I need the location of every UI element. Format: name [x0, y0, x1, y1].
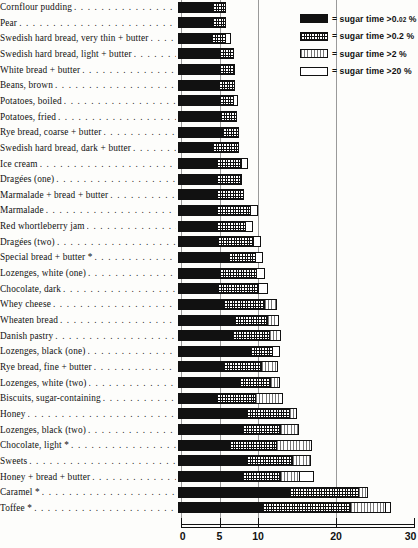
- bar-segment-1: [178, 377, 240, 388]
- bar-segment-3: [280, 424, 299, 435]
- leader-dots: . . . . . . . . . . . . . . . . . . . . …: [53, 299, 176, 309]
- bar-segment-1: [178, 471, 243, 482]
- legend-item-2: = sugar time >0.2 %: [300, 30, 418, 43]
- chart-row: Biscuits, sugar-containing . . . . . . .…: [0, 393, 418, 404]
- chart-row: Dragées (one) . . . . . . . . . . . . . …: [0, 174, 418, 185]
- row-label: Swedish hard bread, very thin + butter .…: [0, 33, 178, 43]
- bar-cell: [178, 236, 418, 247]
- row-label-text: Potatoes, fried: [0, 112, 58, 122]
- row-label-text: Honey: [0, 409, 28, 419]
- bar-segment-1: [178, 455, 247, 466]
- bar-segment-1: [178, 268, 220, 279]
- bar-segment-1: [178, 48, 220, 59]
- bar-segment-2: [216, 189, 244, 200]
- row-label-text: Chocolate, dark: [0, 284, 63, 294]
- chart-row: Marmalade . . . . . . . . . . . . . . . …: [0, 205, 418, 216]
- row-label-text: Pear: [0, 18, 19, 28]
- bar-cell: [178, 174, 418, 185]
- row-label-text: Toffee *: [0, 503, 34, 513]
- stacked-bar: [178, 33, 231, 44]
- stacked-bar: [178, 64, 235, 75]
- bar-segment-4: [253, 236, 261, 247]
- bar-segment-2: [217, 236, 254, 247]
- row-label-text: Marmalade + bread + butter: [0, 190, 110, 200]
- bar-segment-2: [216, 158, 243, 169]
- bar-cell: [178, 315, 418, 326]
- row-label-text: Potatoes, boiled: [0, 96, 64, 106]
- bar-segment-1: [178, 158, 217, 169]
- bar-segment-2: [289, 487, 359, 498]
- bar-cell: [178, 330, 418, 341]
- row-label-text: Swedish hard bread, very thin + butter: [0, 33, 151, 43]
- legend-label: = sugar time >0.2 %: [332, 31, 414, 41]
- stacked-bar: [178, 17, 226, 28]
- bar-segment-4: [255, 252, 263, 263]
- leader-dots: . . . . . . . . . . . . . . . . . . . . …: [29, 456, 176, 466]
- bar-cell: [178, 393, 418, 404]
- bar-segment-2: [228, 252, 257, 263]
- bar-segment-1: [178, 315, 235, 326]
- axis-line-second: [181, 527, 415, 528]
- bar-segment-2: [212, 17, 226, 28]
- bar-cell: [178, 455, 418, 466]
- chart-row: Potatoes, fried . . . . . . . . . . . . …: [0, 111, 418, 122]
- bar-segment-2: [216, 393, 256, 404]
- legend-swatch-white: [300, 67, 328, 76]
- row-label: Special bread + butter * . . . . . . . .…: [0, 252, 178, 262]
- bar-segment-2: [216, 221, 247, 232]
- leader-dots: . . . . . . . . . . . . . . . . . . . . …: [34, 503, 176, 513]
- bar-cell: [178, 205, 418, 216]
- bar-segment-2: [219, 64, 234, 75]
- chart-row: Whey cheese . . . . . . . . . . . . . . …: [0, 299, 418, 310]
- chart-row: Honey . . . . . . . . . . . . . . . . . …: [0, 408, 418, 419]
- bar-cell: [178, 252, 418, 263]
- row-label-text: Chocolate, light *: [0, 440, 71, 450]
- leader-dots: . . . . . . . . . . . . . . . . . . . . …: [88, 268, 176, 278]
- chart-row: Marmalade + bread + butter . . . . . . .…: [0, 189, 418, 200]
- chart-row: Cornflour pudding . . . . . . . . . . . …: [0, 2, 418, 13]
- row-label-text: Rye bread, fine + butter: [0, 362, 94, 372]
- chart-row: Sweets . . . . . . . . . . . . . . . . .…: [0, 455, 418, 466]
- row-label-text: Biscuits, sugar-containing: [0, 393, 103, 403]
- bar-segment-1: [178, 487, 290, 498]
- row-label: Honey . . . . . . . . . . . . . . . . . …: [0, 409, 178, 419]
- bar-cell: [178, 299, 418, 310]
- bar-segment-2: [223, 361, 262, 372]
- chart-row: Swedish hard bread, dark + butter . . . …: [0, 142, 418, 153]
- bar-segment-1: [178, 252, 229, 263]
- bar-segment-1: [178, 33, 212, 44]
- stacked-bar: [178, 440, 312, 451]
- bar-segment-1: [178, 2, 213, 13]
- stacked-bar: [178, 111, 237, 122]
- stacked-bar: [178, 487, 368, 498]
- bar-segment-2: [211, 33, 226, 44]
- row-label-text: Marmalade: [0, 205, 46, 215]
- leader-dots: . . . . . . . . . . . . . . . . . . . . …: [57, 237, 176, 247]
- row-label-text: Whey cheese: [0, 299, 53, 309]
- bar-cell: [178, 440, 418, 451]
- row-label: Pear . . . . . . . . . . . . . . . . . .…: [0, 18, 178, 28]
- bar-segment-2: [219, 95, 234, 106]
- leader-dots: . . . . . . . . . . . . . . . . . . . . …: [42, 487, 176, 497]
- axis-line: [181, 524, 415, 525]
- x-axis: 05102030: [0, 518, 418, 548]
- leader-dots: . . . . . . . . . . . . . . . . . . . . …: [82, 65, 176, 75]
- bar-segment-2: [223, 299, 265, 310]
- chart-row: Rye bread, fine + butter . . . . . . . .…: [0, 361, 418, 372]
- bar-segment-4: [385, 502, 391, 513]
- stacked-bar: [178, 424, 299, 435]
- leader-dots: . . . . . . . . . . . . . . . . . . . . …: [60, 315, 176, 325]
- row-label: Potatoes, boiled . . . . . . . . . . . .…: [0, 96, 178, 106]
- row-label: Rye bread, fine + butter . . . . . . . .…: [0, 362, 178, 372]
- row-label: Marmalade + bread + butter . . . . . . .…: [0, 190, 178, 200]
- bar-cell: [178, 361, 418, 372]
- stacked-bar: [178, 221, 253, 232]
- stacked-bar: [178, 80, 235, 91]
- bar-segment-1: [178, 424, 243, 435]
- chart-row: Potatoes, boiled . . . . . . . . . . . .…: [0, 95, 418, 106]
- stacked-bar: [178, 393, 283, 404]
- bar-cell: [178, 111, 418, 122]
- stacked-bar: [178, 315, 279, 326]
- axis-tick-label-0: 0: [180, 530, 186, 542]
- row-label-text: Sweets: [0, 456, 29, 466]
